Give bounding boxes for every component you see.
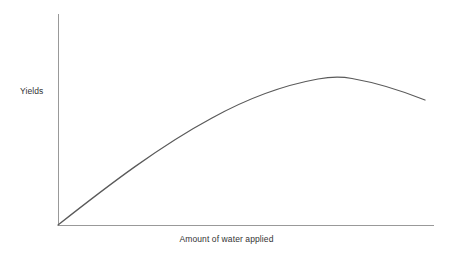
yield-response-curve	[58, 77, 425, 225]
chart-figure: Yields Amount of water applied	[0, 0, 453, 256]
chart-plot-area	[0, 0, 453, 256]
y-axis-label: Yields	[20, 87, 43, 96]
x-axis-label: Amount of water applied	[0, 235, 453, 244]
